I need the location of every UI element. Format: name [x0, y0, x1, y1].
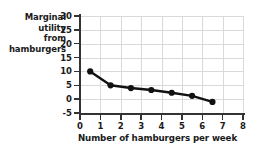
- data-point: [87, 68, 93, 74]
- series-markers: [87, 68, 215, 105]
- data-point: [189, 93, 195, 99]
- data-point: [169, 90, 175, 96]
- chart-figure: Marginal utility from hamburgers -505101…: [0, 0, 260, 150]
- data-point: [107, 82, 113, 88]
- data-point: [209, 99, 215, 105]
- data-point: [128, 85, 134, 91]
- data-point: [148, 87, 154, 93]
- x-axis-title: Number of hamburgers per week: [60, 133, 255, 143]
- data-series: [0, 0, 260, 150]
